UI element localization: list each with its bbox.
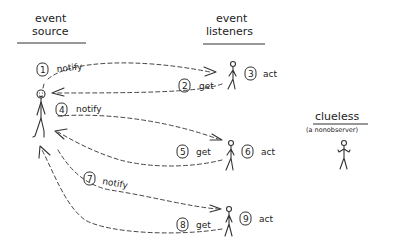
svg-text:get: get [196,147,211,157]
svg-text:act: act [261,147,275,157]
step-9: 9 act [240,212,273,225]
listener-figure-1 [228,62,236,90]
legs [33,118,44,137]
listener-figure-3 [225,207,232,237]
step-8: 8 get [177,218,211,231]
svg-text:event: event [35,12,67,25]
svg-text:6: 6 [245,147,251,157]
svg-text:9: 9 [243,214,249,224]
step-6: 6 act [242,145,275,158]
svg-text:8: 8 [180,220,186,230]
arrow-4-notify [58,115,218,139]
arrow-7-notify [58,150,218,209]
step-7: 7 notify [84,172,129,191]
clueless-figure [338,141,350,170]
svg-text:notify: notify [76,104,102,114]
event-source-figure [33,84,45,137]
arrowhead-2 [52,88,64,96]
svg-text:4: 4 [59,105,65,115]
svg-text:act: act [263,69,277,79]
step-2: 2 get [179,79,214,92]
svg-text:clueless: clueless [315,110,359,123]
svg-text:source: source [32,25,69,38]
svg-text:7: 7 [87,174,93,184]
arrowhead-8 [39,146,50,158]
event-listeners-heading: event listeners [203,12,265,44]
svg-text:notify: notify [102,176,130,190]
clueless-heading: clueless (a nonobserver) [306,110,368,134]
step-4: 4 notify [56,103,102,116]
step-5: 5 get [177,145,211,158]
svg-text:notify: notify [56,61,83,74]
svg-text:get: get [196,220,211,230]
event-source-heading: event source [17,12,86,43]
observer-pattern-diagram: event source event listeners clueless (a… [0,0,394,251]
svg-text:act: act [259,214,273,224]
svg-text:event: event [216,12,248,25]
arrow-2-get [55,84,222,93]
svg-text:2: 2 [182,81,188,91]
step-1: 1 notify [37,61,83,76]
svg-text:1: 1 [40,65,46,75]
svg-text:get: get [199,81,214,91]
svg-text:5: 5 [180,147,186,157]
listener-figure-2 [226,141,234,171]
svg-text:(a nonobserver): (a nonobserver) [306,126,358,134]
svg-text:3: 3 [248,69,254,79]
svg-text:listeners: listeners [206,25,253,38]
step-3: 3 act [245,67,277,80]
